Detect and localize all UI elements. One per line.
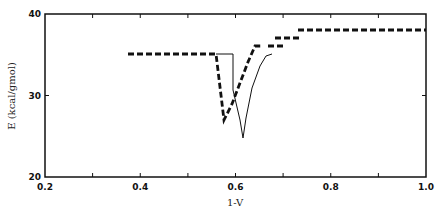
- x-tick-0.4: 0.4: [132, 182, 148, 192]
- solid-series-line: [216, 54, 272, 138]
- y-tick-30: 30: [28, 91, 41, 101]
- x-tick-0.2: 0.2: [37, 182, 53, 192]
- y-axis-label: E (kcal/gmol): [6, 62, 17, 130]
- y-tick-20: 20: [28, 172, 41, 182]
- x-tick-1.0: 1.0: [418, 182, 434, 192]
- x-tick-0.8: 0.8: [323, 182, 339, 192]
- chart: 0.2 0.4 0.6 0.8 1.0 40 30 20 1-V E (kcal…: [0, 0, 442, 214]
- x-axis-label: 1-V: [227, 197, 244, 208]
- x-tick-0.6: 0.6: [228, 182, 244, 192]
- y-tick-40: 40: [28, 9, 41, 19]
- dashed-series-line: [128, 46, 263, 120]
